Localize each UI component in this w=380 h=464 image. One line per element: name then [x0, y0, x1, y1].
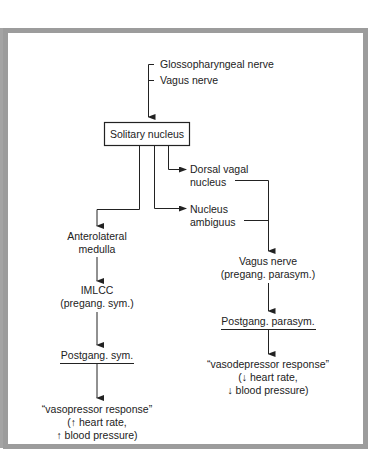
vasopressor-blood-pressure-label: ↑ blood pressure) [56, 429, 137, 441]
postgang-sym-label: Postgang. sym. [61, 349, 133, 361]
imlcc-label-line1: IMLCC [81, 284, 114, 296]
imlcc-label-line2: (pregang. sym.) [60, 297, 134, 309]
vagus-nerve-input-label: Vagus nerve [160, 74, 218, 86]
left-branch-line [97, 146, 140, 226]
dorsal-vagal-nucleus-label-line1: Dorsal vagal [190, 163, 248, 175]
vasodepressor-response-label: “vasodepressor response” [207, 358, 329, 370]
vasodepressor-blood-pressure-label: ↓ blood pressure) [227, 384, 308, 396]
anterolateral-medulla-label-line1: Anterolateral [67, 230, 127, 242]
vagus-nerve-pregang-label-line2: (pregang. parasym.) [221, 268, 316, 280]
vasopressor-response-label: “vasopressor response” [42, 403, 153, 415]
diagram-frame [6, 31, 366, 447]
right-merge-lines [235, 181, 269, 252]
nucleus-ambiguus-label-line2: ambiguus [190, 216, 236, 228]
right-branch-line [169, 146, 187, 170]
input-bracket [149, 65, 155, 118]
flow-diagram: Glossopharyngeal nerve Vagus nerve Solit… [0, 0, 380, 464]
vagus-nerve-pregang-label-line1: Vagus nerve [239, 255, 297, 267]
postgang-parasym-label: Postgang. parasym. [221, 315, 314, 327]
vasopressor-heart-rate-label: (↑ heart rate, [67, 416, 127, 428]
branch-lines [97, 146, 186, 226]
middle-branch-line [155, 146, 187, 209]
solitary-nucleus-label: Solitary nucleus [110, 128, 184, 140]
vasodepressor-heart-rate-label: (↓ heart rate, [238, 371, 298, 383]
nucleus-ambiguus-label-line1: Nucleus [190, 203, 228, 215]
glossopharyngeal-nerve-label: Glossopharyngeal nerve [160, 58, 274, 70]
anterolateral-medulla-label-line2: medulla [79, 243, 116, 255]
dorsal-vagal-nucleus-label-line2: nucleus [190, 176, 226, 188]
